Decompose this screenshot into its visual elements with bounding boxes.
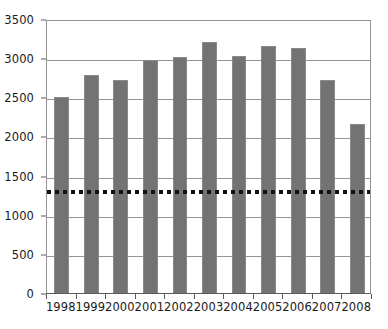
x-tick-label-2008: 2008 (341, 300, 371, 314)
bar-2008 (350, 124, 365, 293)
x-tick-mark-3 (135, 294, 136, 299)
x-tick-label-1998: 1998 (46, 300, 76, 314)
x-tick-mark-2 (105, 294, 106, 299)
x-tick-label-1999: 1999 (75, 300, 105, 314)
y-tick-label-1500: 1500 (4, 170, 34, 184)
y-tick-label-0: 0 (27, 287, 34, 301)
y-tick-label-2500: 2500 (4, 91, 34, 105)
x-tick-label-2000: 2000 (105, 300, 135, 314)
x-tick-label-2002: 2002 (164, 300, 194, 314)
y-tick-label-500: 500 (12, 248, 34, 262)
x-tick-label-2001: 2001 (135, 300, 165, 314)
x-tick-mark-5 (194, 294, 195, 299)
bar-1999 (84, 75, 99, 293)
x-tick-mark-9 (312, 294, 313, 299)
x-tick-mark-11 (371, 294, 372, 299)
bar-2000 (113, 80, 128, 293)
bar-1998 (54, 97, 69, 293)
x-tick-label-2007: 2007 (312, 300, 342, 314)
bars-layer (47, 21, 370, 293)
bar-2001 (143, 60, 158, 293)
bar-2002 (173, 57, 188, 293)
bar-2005 (261, 46, 276, 293)
x-tick-mark-4 (164, 294, 165, 299)
x-tick-mark-0 (46, 294, 47, 299)
bar-2007 (320, 80, 335, 293)
x-tick-label-2004: 2004 (223, 300, 253, 314)
x-tick-mark-10 (341, 294, 342, 299)
x-tick-label-2006: 2006 (282, 300, 312, 314)
bar-2006 (291, 48, 306, 293)
y-tick-label-1000: 1000 (4, 209, 34, 223)
reference-line (47, 190, 370, 194)
x-tick-mark-8 (282, 294, 283, 299)
x-axis-labels: 1998199920002001200220032004200520062007… (46, 300, 371, 322)
x-tick-mark-1 (76, 294, 77, 299)
plot-area (46, 20, 371, 294)
bar-chart: 0500100015002000250030003500 19981999200… (0, 0, 388, 329)
bar-2003 (202, 42, 217, 293)
bar-2004 (232, 56, 247, 293)
y-axis: 0500100015002000250030003500 (0, 0, 42, 329)
y-tick-label-3500: 3500 (4, 13, 34, 27)
y-tick-label-3000: 3000 (4, 52, 34, 66)
x-tick-mark-6 (223, 294, 224, 299)
x-tick-label-2003: 2003 (194, 300, 224, 314)
y-tick-label-2000: 2000 (4, 130, 34, 144)
x-tick-label-2005: 2005 (253, 300, 283, 314)
x-tick-mark-7 (253, 294, 254, 299)
